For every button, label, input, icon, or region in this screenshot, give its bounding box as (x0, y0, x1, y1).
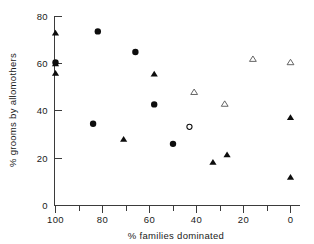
data-point-filled-circle (132, 49, 138, 55)
x-ticklabel-0: 0 (288, 214, 294, 225)
data-point-filled-triangle (120, 136, 127, 142)
axis-lines (55, 16, 301, 206)
data-point-open-triangle (287, 59, 294, 64)
data-point-filled-circle (170, 141, 176, 147)
x-ticklabel-60: 60 (144, 214, 155, 225)
data-point-open-triangle (250, 56, 257, 61)
y-ticklabel-80: 80 (37, 11, 48, 22)
x-ticklabel-40: 40 (191, 214, 202, 225)
scatter-plot-figure: 80 60 40 20 0 100 80 60 40 20 0 % f (0, 0, 314, 244)
data-point-filled-triangle (209, 159, 216, 165)
data-point-filled-triangle (287, 174, 294, 180)
data-point-filled-triangle (151, 71, 158, 77)
data-point-open-circle (187, 124, 192, 129)
data-point-filled-triangle (52, 30, 59, 36)
x-ticklabel-20: 20 (238, 214, 249, 225)
x-axis-title: % families dominated (128, 230, 224, 241)
y-axis-title: % grooms by allomothers (7, 53, 18, 167)
y-ticklabel-0: 0 (42, 200, 48, 211)
y-ticklabel-40: 40 (37, 105, 48, 116)
data-point-open-triangle (221, 101, 228, 106)
data-point-filled-triangle (52, 70, 59, 76)
y-ticklabel-20: 20 (37, 153, 48, 164)
data-markers-layer (52, 28, 294, 179)
y-ticklabel-60: 60 (37, 58, 48, 69)
data-point-filled-circle (151, 101, 157, 107)
y-axis-ticks (55, 17, 62, 206)
data-point-filled-triangle (287, 114, 294, 120)
data-point-filled-circle (90, 121, 96, 127)
x-ticklabel-100: 100 (47, 214, 64, 225)
data-point-filled-circle (95, 28, 101, 34)
x-axis-minor-ticks (80, 206, 268, 211)
data-point-filled-triangle (223, 151, 230, 157)
plot-canvas: 80 60 40 20 0 100 80 60 40 20 0 % f (0, 0, 314, 244)
data-point-open-triangle (191, 89, 198, 94)
x-ticklabel-80: 80 (97, 214, 108, 225)
